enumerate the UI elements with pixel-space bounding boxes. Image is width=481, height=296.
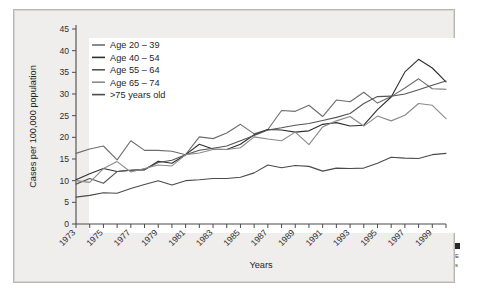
y-tick-label: 10 — [59, 176, 69, 186]
chart-legend: Age 20 – 39Age 40 – 54Age 55 – 64Age 65 … — [92, 40, 165, 100]
x-tick-label: 1983 — [194, 227, 215, 248]
x-tick-label: 1999 — [413, 227, 434, 248]
figure-root: 0510152025303540451973197519771979198119… — [0, 0, 481, 296]
x-tick-label: 1985 — [221, 227, 242, 248]
y-tick-label: 45 — [59, 24, 69, 34]
caption-fragment: E s — [455, 243, 479, 277]
line-chart: 0510152025303540451973197519771979198119… — [14, 10, 454, 282]
legend-label-2: Age 40 – 54 — [110, 53, 160, 63]
x-axis-title: Years — [249, 260, 273, 270]
legend-label-1: Age 20 – 39 — [110, 40, 160, 50]
caption-line-1: E — [455, 253, 459, 259]
y-tick-label: 30 — [59, 89, 69, 99]
y-tick-label: 20 — [59, 132, 69, 142]
y-tick-label: 35 — [59, 67, 69, 77]
x-tick-label: 1995 — [358, 227, 379, 248]
x-tick-label: 1987 — [249, 227, 270, 248]
figure-panel: 0510152025303540451973197519771979198119… — [13, 9, 455, 283]
caption-line-2: s — [455, 262, 458, 268]
x-tick-label: 1975 — [84, 227, 105, 248]
y-tick-label: 0 — [64, 219, 69, 229]
series-line-5 — [76, 153, 446, 197]
y-tick-label: 5 — [64, 197, 69, 207]
x-tick-label: 1977 — [112, 227, 133, 248]
y-tick-label: 40 — [59, 46, 69, 56]
x-tick-label: 1989 — [276, 227, 297, 248]
x-tick-label: 1981 — [166, 227, 187, 248]
legend-label-4: Age 65 – 74 — [110, 78, 160, 88]
y-tick-label: 25 — [59, 111, 69, 121]
x-tick-label: 1997 — [386, 227, 407, 248]
x-tick-label: 1973 — [57, 227, 78, 248]
legend-label-5: >75 years old — [110, 90, 165, 100]
y-tick-label: 15 — [59, 154, 69, 164]
legend-label-3: Age 55 – 64 — [110, 65, 160, 75]
x-tick-label: 1993 — [331, 227, 352, 248]
x-tick-label: 1979 — [139, 227, 160, 248]
y-axis-title: Cases per 100,000 population — [28, 65, 38, 188]
x-tick-label: 1991 — [303, 227, 324, 248]
caption-marker — [455, 243, 460, 249]
